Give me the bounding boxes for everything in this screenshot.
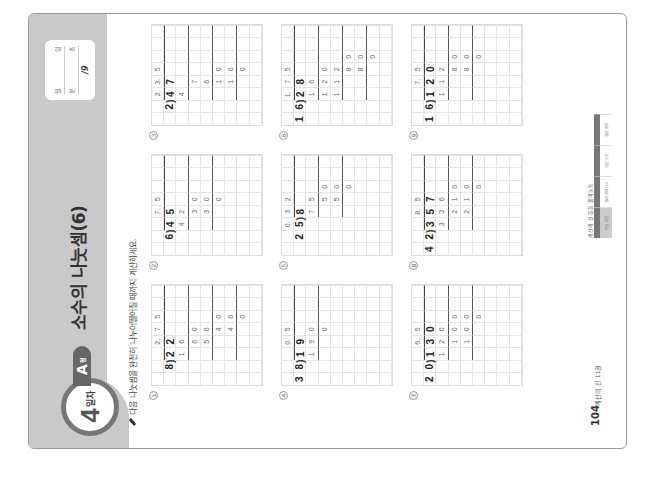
grid-cell bbox=[306, 113, 318, 126]
grid-cell bbox=[497, 193, 509, 206]
grid-cell bbox=[306, 243, 318, 256]
footer-table: 학습 방법 틀린 문제 다시 오답 노트 정답 확인 bbox=[594, 114, 612, 238]
grid-cell bbox=[355, 360, 367, 373]
grid-cell bbox=[485, 75, 497, 88]
grid-cell bbox=[237, 193, 249, 206]
grid-cell bbox=[201, 113, 213, 126]
grid-cell bbox=[473, 205, 485, 218]
grid-cell bbox=[331, 243, 343, 256]
grid-cell bbox=[189, 180, 201, 193]
grid-cell bbox=[343, 360, 355, 373]
grid-cell bbox=[225, 373, 237, 386]
grid-cell bbox=[306, 298, 318, 311]
grid-cell: 2. bbox=[152, 335, 164, 348]
grid-cell bbox=[250, 25, 262, 38]
grid-cell: 0 bbox=[449, 323, 461, 336]
grid-cell: 0. bbox=[282, 218, 294, 231]
date-row: 월 일 bbox=[53, 46, 65, 94]
grid-cell bbox=[497, 298, 509, 311]
grid-cell bbox=[412, 113, 424, 126]
grid-cell bbox=[412, 243, 424, 256]
grid-cell: 5 bbox=[319, 193, 331, 206]
grid-cell bbox=[250, 75, 262, 88]
grid-cell bbox=[282, 310, 294, 323]
grid-cell bbox=[201, 218, 213, 231]
grid-cell bbox=[497, 155, 509, 168]
grid-cell bbox=[461, 373, 473, 386]
grid-cell bbox=[473, 155, 485, 168]
grid-cell bbox=[461, 38, 473, 51]
grid-cell bbox=[367, 373, 379, 386]
score-total: /9 bbox=[81, 66, 90, 75]
grid-cell bbox=[152, 100, 164, 113]
grid-cell bbox=[319, 113, 331, 126]
grid-cell bbox=[225, 348, 237, 361]
grid-cell bbox=[176, 193, 188, 206]
grid-cell: 6 bbox=[189, 335, 201, 348]
grid-cell bbox=[282, 298, 294, 311]
second-label: 초 bbox=[67, 46, 76, 52]
grid-cell bbox=[510, 100, 522, 113]
grid-cell bbox=[510, 25, 522, 38]
grid-cell bbox=[343, 193, 355, 206]
grid-cell bbox=[250, 323, 262, 336]
grid-cell bbox=[424, 38, 436, 51]
grid-cell bbox=[319, 218, 331, 231]
grid-cell bbox=[412, 360, 424, 373]
grid-cell bbox=[152, 243, 164, 256]
grid-cell bbox=[367, 100, 379, 113]
grid-cell bbox=[213, 243, 225, 256]
grid-cell bbox=[189, 25, 201, 38]
grid-cell bbox=[294, 38, 306, 51]
grid-cell bbox=[449, 373, 461, 386]
grid-cell bbox=[473, 323, 485, 336]
day-number: 4 bbox=[75, 408, 106, 422]
grid-cell bbox=[367, 63, 379, 76]
grid-cell bbox=[343, 113, 355, 126]
grid-cell bbox=[412, 88, 424, 101]
grid-cell bbox=[250, 155, 262, 168]
grid-cell: 0 bbox=[461, 180, 473, 193]
grid-cell bbox=[331, 323, 343, 336]
grid-cell: 0 bbox=[237, 310, 249, 323]
grid-cell bbox=[380, 310, 392, 323]
grid-cell bbox=[213, 100, 225, 113]
grid-cell: 0 bbox=[461, 323, 473, 336]
grid-cell bbox=[355, 285, 367, 298]
grid-cell bbox=[189, 348, 201, 361]
grid-cell bbox=[436, 243, 448, 256]
page-number: 104 bbox=[590, 405, 601, 426]
grid-cell bbox=[355, 193, 367, 206]
grid-cell: 1 bbox=[319, 88, 331, 101]
grid-cell bbox=[250, 285, 262, 298]
grid-cell bbox=[473, 243, 485, 256]
grid-cell: 8 bbox=[294, 75, 306, 88]
grid-cell bbox=[250, 243, 262, 256]
grid-cell: 1 bbox=[436, 348, 448, 361]
grid-cell bbox=[306, 100, 318, 113]
grid-cell bbox=[485, 38, 497, 51]
grid-cell bbox=[164, 323, 176, 336]
grid-cell bbox=[331, 310, 343, 323]
grid-cell bbox=[367, 285, 379, 298]
grid-cell bbox=[461, 298, 473, 311]
problem-number: 1 bbox=[149, 391, 158, 400]
grid-cell bbox=[485, 193, 497, 206]
grid-cell bbox=[485, 360, 497, 373]
grid-cell bbox=[497, 230, 509, 243]
grid-cell bbox=[380, 88, 392, 101]
grid-cell: 4 bbox=[176, 88, 188, 101]
grid-cell: 3 bbox=[436, 218, 448, 231]
grid-cell bbox=[225, 50, 237, 63]
month-label: 월 bbox=[53, 88, 62, 94]
grid-cell: 7. bbox=[152, 205, 164, 218]
grid-cell bbox=[355, 38, 367, 51]
grid-cell bbox=[436, 310, 448, 323]
grid-cell bbox=[424, 25, 436, 38]
grid-cell bbox=[164, 63, 176, 76]
grid-cell bbox=[152, 38, 164, 51]
grid-cell bbox=[380, 360, 392, 373]
grid-cell bbox=[355, 218, 367, 231]
grid-cell: 7 bbox=[306, 205, 318, 218]
division-grid: 8.5423573362102100 bbox=[411, 154, 523, 256]
